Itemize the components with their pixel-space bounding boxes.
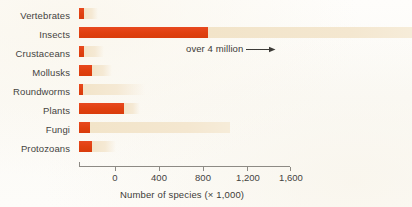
axis-tick-400	[159, 167, 160, 171]
axis-tick-1600	[290, 167, 291, 171]
annotation-label: over 4 million	[186, 43, 243, 54]
bar-row-vertebrates	[79, 8, 409, 19]
category-label-roundworms: Roundworms	[4, 87, 70, 97]
bar-estimated-protozoans	[92, 141, 116, 152]
axis-tick-label-1600: 1,600	[279, 172, 303, 183]
bar-estimated-mollusks	[92, 65, 112, 76]
axis-tick-0	[115, 167, 116, 171]
bar-described-mollusks	[79, 65, 92, 76]
bar-described-roundworms	[79, 84, 83, 95]
axis-tick-label-1200: 1,200	[236, 172, 260, 183]
x-axis-title: Number of species (× 1,000)	[120, 189, 244, 200]
bar-row-roundworms	[79, 84, 409, 95]
bar-described-insects	[79, 27, 208, 38]
category-label-plants: Plants	[4, 106, 70, 116]
category-label-vertebrates: Vertebrates	[4, 11, 70, 21]
bar-described-crustaceans	[79, 46, 84, 57]
bar-estimated-plants	[124, 103, 140, 114]
bar-described-vertebrates	[79, 8, 84, 19]
axis-tick-800	[203, 167, 204, 171]
bar-estimated-vertebrates	[84, 8, 98, 19]
bar-described-plants	[79, 103, 124, 114]
category-label-crustaceans: Crustaceans	[4, 49, 70, 59]
axis-tick-1200	[247, 167, 248, 171]
category-label-insects: Insects	[4, 30, 70, 40]
category-label-protozoans: Protozoans	[4, 144, 70, 154]
bar-row-insects	[79, 27, 412, 38]
annotation-over-4-million: over 4 million	[186, 43, 276, 55]
bar-described-fungi	[79, 122, 90, 133]
category-label-mollusks: Mollusks	[4, 68, 70, 78]
species-bar-chart: Vertebrates Insects Crustaceans Mollusks…	[0, 0, 412, 207]
bar-described-protozoans	[79, 141, 92, 152]
bar-estimated-fungi	[90, 122, 230, 133]
bar-row-mollusks	[79, 65, 409, 76]
axis-tick-start	[79, 162, 80, 166]
arrow-right-icon	[246, 44, 276, 55]
bar-row-fungi	[79, 122, 409, 133]
category-label-fungi: Fungi	[4, 125, 70, 135]
bar-row-plants	[79, 103, 409, 114]
bar-estimated-crustaceans	[84, 46, 104, 57]
axis-tick-label-400: 400	[151, 172, 167, 183]
axis-tick-label-800: 800	[195, 172, 211, 183]
bar-estimated-roundworms	[83, 84, 145, 95]
axis-tick-label-0: 0	[112, 172, 117, 183]
x-axis-line	[79, 166, 290, 167]
bar-estimated-insects	[207, 27, 412, 38]
bar-row-protozoans	[79, 141, 409, 152]
